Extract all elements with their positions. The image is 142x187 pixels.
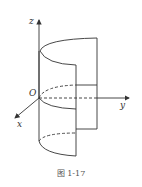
top-front-curve: [40, 51, 76, 65]
x-axis: [15, 98, 39, 118]
top-back-curve: [40, 38, 97, 51]
z-label: z: [28, 16, 34, 26]
half-cylinder-diagram: z O y x 图 1-17: [0, 0, 142, 187]
caption: 图 1-17: [57, 169, 86, 178]
origin-label: O: [29, 88, 37, 98]
x-label: x: [17, 119, 22, 129]
y-label: y: [119, 100, 126, 110]
